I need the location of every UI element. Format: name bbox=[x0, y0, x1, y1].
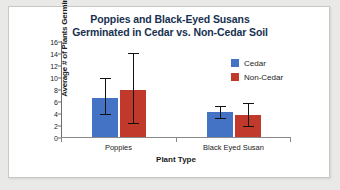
chart-card: Poppies and Black-Eyed Susans Germinated… bbox=[8, 6, 330, 178]
x-tickmark-1 bbox=[176, 138, 177, 142]
plot-area: 16 14 12 10 8 6 4 2 0 bbox=[61, 41, 291, 138]
y-tick-label-14: 14 bbox=[36, 51, 58, 58]
y-tick-label-10: 10 bbox=[36, 75, 58, 82]
x-axis-label: Plant Type bbox=[61, 155, 291, 164]
legend-item-non-cedar[interactable]: Non-Cedar bbox=[231, 71, 283, 83]
error-bar-cap-upper bbox=[243, 103, 254, 104]
legend-swatch-non-cedar-icon bbox=[231, 73, 239, 81]
chart-title-line-1: Poppies and Black-Eyed Susans bbox=[9, 13, 331, 26]
error-bar-cap-lower bbox=[215, 118, 226, 119]
bar-group-poppies bbox=[61, 41, 176, 137]
bar-group-black-eyed-susan bbox=[176, 41, 291, 137]
chart-legend: Cedar Non-Cedar bbox=[231, 57, 283, 85]
error-bar-black-eyed-susan-non-cedar bbox=[235, 104, 261, 127]
error-bar-black-eyed-susan-cedar bbox=[207, 107, 233, 119]
error-bar-cap-lower bbox=[128, 123, 139, 124]
legend-swatch-cedar-icon bbox=[231, 59, 239, 67]
error-bar-cap-lower bbox=[243, 126, 254, 127]
screenshot-page: Poppies and Black-Eyed Susans Germinated… bbox=[0, 0, 340, 190]
error-bar-cap-upper bbox=[100, 78, 111, 79]
error-bar-stem bbox=[133, 54, 134, 124]
category-label-poppies: Poppies bbox=[61, 143, 176, 152]
legend-label-cedar: Cedar bbox=[244, 59, 266, 68]
y-tick-label-6: 6 bbox=[36, 99, 58, 106]
error-bar-cap-upper bbox=[215, 106, 226, 107]
y-tick-label-16: 16 bbox=[36, 39, 58, 46]
chart-title: Poppies and Black-Eyed Susans Germinated… bbox=[9, 13, 331, 38]
error-bar-cap-upper bbox=[128, 53, 139, 54]
y-tick-label-8: 8 bbox=[36, 87, 58, 94]
x-tickmark-0 bbox=[61, 138, 62, 142]
y-tick-label-0: 0 bbox=[36, 135, 58, 142]
category-label-black-eyed-susan: Black Eyed Susan bbox=[176, 143, 291, 152]
legend-item-cedar[interactable]: Cedar bbox=[231, 57, 283, 69]
legend-label-non-cedar: Non-Cedar bbox=[244, 73, 283, 82]
error-bar-cap-lower bbox=[100, 114, 111, 115]
error-bar-poppies-cedar bbox=[92, 79, 118, 115]
error-bar-poppies-non-cedar bbox=[120, 54, 146, 124]
error-bar-stem bbox=[248, 104, 249, 127]
y-tick-label-12: 12 bbox=[36, 63, 58, 70]
error-bar-stem bbox=[105, 79, 106, 115]
chart-title-line-2: Germinated in Cedar vs. Non-Cedar Soil bbox=[9, 26, 331, 39]
y-tick-label-2: 2 bbox=[36, 123, 58, 130]
y-tick-label-4: 4 bbox=[36, 111, 58, 118]
x-tickmark-2 bbox=[290, 138, 291, 142]
